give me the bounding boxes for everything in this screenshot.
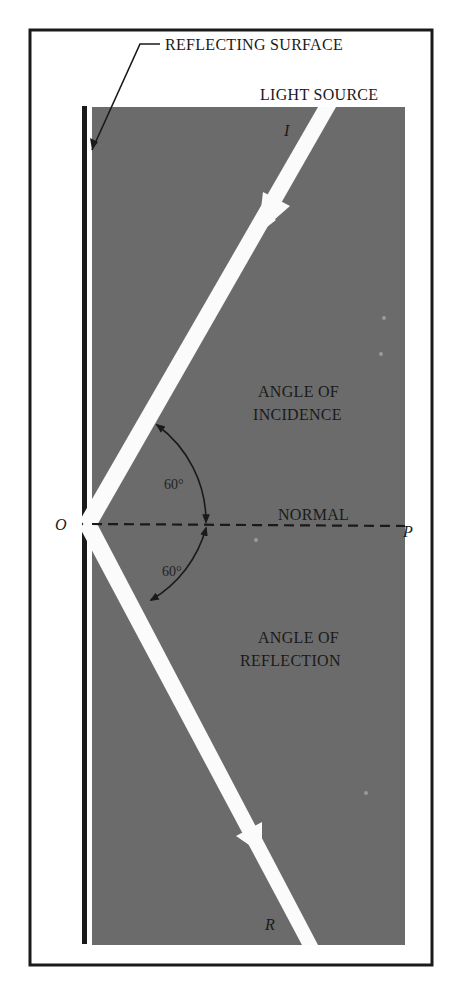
normal-label: NORMAL xyxy=(278,506,349,523)
reflecting-surface-label: REFLECTING SURFACE xyxy=(165,36,343,53)
speck xyxy=(382,316,386,320)
angle-reflection-label-1: ANGLE OF xyxy=(258,629,339,646)
angle-reflection-label-2: REFLECTION xyxy=(240,652,341,669)
speck xyxy=(379,352,383,356)
angle-incidence-label-1: ANGLE OF xyxy=(258,383,339,400)
light-source-label: LIGHT SOURCE xyxy=(260,86,378,103)
incidence-angle-value: 60° xyxy=(164,477,184,492)
incident-ray-label: I xyxy=(283,122,290,139)
reflected-ray-label: R xyxy=(264,916,275,933)
reflection-diagram: REFLECTING SURFACE LIGHT SOURCE I R O P … xyxy=(0,0,451,996)
speck xyxy=(254,538,258,542)
reflection-angle-value: 60° xyxy=(162,564,182,579)
angle-incidence-label-2: INCIDENCE xyxy=(253,406,342,423)
point-p-label: P xyxy=(402,523,413,540)
speck xyxy=(364,791,368,795)
point-o-label: O xyxy=(55,516,67,533)
